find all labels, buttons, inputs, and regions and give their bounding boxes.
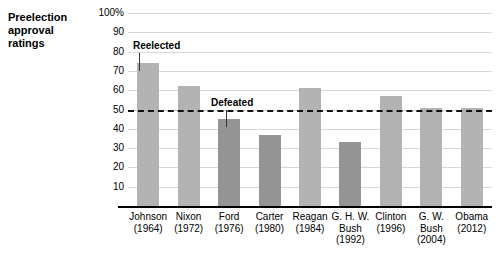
x-axis-labels: Johnson(1964)Nixon(1972)Ford(1976)Carter…: [128, 211, 492, 269]
y-axis-tick-label: 80: [92, 46, 124, 57]
y-axis-tick-label: 70: [92, 65, 124, 76]
x-axis-tick-label-line: Obama: [444, 211, 499, 223]
annotation-reelected-leader-line: [139, 53, 140, 71]
x-axis-tick-label-line: (1992): [322, 234, 378, 246]
y-axis-tick-label: 10: [92, 181, 124, 192]
plot-area: [128, 13, 492, 206]
y-axis: 100%908070605040302010: [92, 13, 124, 206]
y-axis-tick-label: 60: [92, 84, 124, 95]
bar-clinton: [380, 96, 402, 206]
x-axis-tick-label-line: (2012): [444, 223, 499, 235]
x-axis-tick-label: Obama(2012): [444, 211, 499, 234]
approval-ratings-chart: Preelection approval ratings 100%9080706…: [0, 0, 499, 270]
annotation-defeated: Defeated: [211, 97, 253, 108]
bar-obama: [461, 108, 483, 206]
x-axis-tick-label-line: (2004): [403, 234, 459, 246]
annotation-reelected: Reelected: [133, 40, 180, 51]
bar-johnson: [137, 63, 159, 206]
bar-g-w-bush: [420, 108, 442, 206]
bar-ford: [218, 119, 240, 206]
chart-title-line-1: Preelection: [8, 11, 88, 24]
gridline: [128, 13, 492, 14]
bar-reagan: [299, 88, 321, 206]
y-axis-tick-label: 30: [92, 142, 124, 153]
bar-carter: [259, 135, 281, 206]
chart-title-line-3: ratings: [8, 37, 88, 50]
x-axis-baseline: [118, 206, 492, 208]
y-axis-tick-label: 90: [92, 26, 124, 37]
y-axis-tick-label: 40: [92, 123, 124, 134]
annotation-defeated-leader-line: [226, 110, 227, 127]
gridline: [128, 32, 492, 33]
y-axis-tick-label: 50: [92, 104, 124, 115]
gridline: [128, 71, 492, 72]
gridline: [128, 52, 492, 53]
chart-title: Preelection approval ratings: [8, 11, 88, 50]
chart-title-line-2: approval: [8, 24, 88, 37]
bar-g-h-w-bush: [339, 142, 361, 206]
y-axis-tick-label: 100%: [92, 7, 124, 18]
bar-nixon: [178, 86, 200, 206]
y-axis-tick-label: 20: [92, 161, 124, 172]
fifty-percent-reference-line: [128, 110, 492, 112]
